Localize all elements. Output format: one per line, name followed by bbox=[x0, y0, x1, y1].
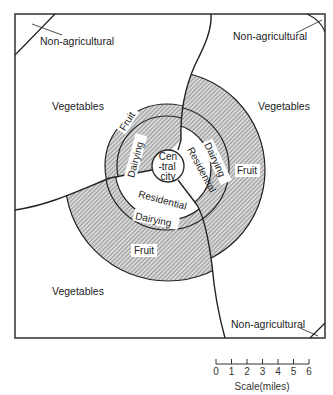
scale-tick-5: 5 bbox=[291, 366, 297, 377]
label-city-3: city bbox=[161, 171, 176, 182]
label-nonag-br: Non-agricultural bbox=[231, 318, 305, 330]
scale-tick-2: 2 bbox=[244, 366, 250, 377]
label-nonag-tr: Non-agricultural bbox=[233, 30, 307, 42]
label-veg-bottom: Vegetables bbox=[52, 285, 104, 297]
land-use-zones-diagram: Non-agricultural Non-agricultural Non-ag… bbox=[0, 0, 333, 395]
scale-tick-6: 6 bbox=[306, 366, 312, 377]
scale-title: Scale(miles) bbox=[234, 381, 289, 392]
label-fruit-bottom: Fruit bbox=[134, 245, 154, 256]
scale-tick-3: 3 bbox=[260, 366, 266, 377]
scale-tick-4: 4 bbox=[275, 366, 281, 377]
label-veg-ul: Vegetables bbox=[52, 100, 104, 112]
scale-tick-0: 0 bbox=[213, 366, 219, 377]
scale-bar: 0 1 2 3 4 5 6 Scale(miles) bbox=[213, 359, 312, 392]
label-veg-right: Vegetables bbox=[258, 100, 310, 112]
scale-tick-1: 1 bbox=[229, 366, 235, 377]
label-fruit-right: Fruit bbox=[237, 165, 257, 176]
label-nonag-tl: Non-agricultural bbox=[40, 35, 114, 47]
